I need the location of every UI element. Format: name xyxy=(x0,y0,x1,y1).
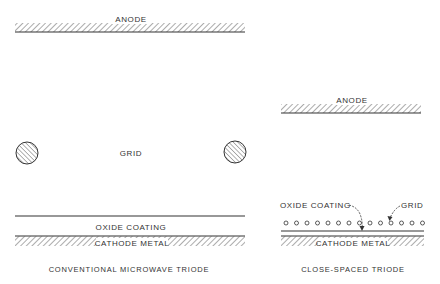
close-spaced-caption: CLOSE-SPACED TRIODE xyxy=(301,265,405,274)
conventional-cathode: CATHODE METAL xyxy=(15,236,245,248)
conventional-oxide-coating: OXIDE COATING xyxy=(15,216,245,232)
grid-leader-line xyxy=(390,206,400,218)
close-spaced-anode-label: ANODE xyxy=(336,96,367,105)
grid-wire-right xyxy=(224,141,246,163)
grid-leader-arrow xyxy=(388,216,393,221)
conventional-anode-label: ANODE xyxy=(115,15,146,24)
close-spaced-cathode: CATHODE METAL xyxy=(281,236,424,248)
conventional-grid-label: GRID xyxy=(120,149,142,158)
close-spaced-cathode-label: CATHODE METAL xyxy=(316,239,391,248)
oxide-leader-arrow xyxy=(360,226,365,231)
conventional-oxide-label: OXIDE COATING xyxy=(96,223,167,232)
oxide-leader-line xyxy=(349,205,362,229)
conventional-anode: ANODE xyxy=(15,14,245,32)
conventional-grid: GRID xyxy=(16,141,246,164)
close-spaced-anode: ANODE xyxy=(281,95,421,113)
close-spaced-triode: ANODE OXIDE COATING GRID xyxy=(280,95,425,274)
conventional-caption: CONVENTIONAL MICROWAVE TRIODE xyxy=(49,265,210,274)
close-spaced-labels: OXIDE COATING GRID xyxy=(280,201,423,231)
close-spaced-grid-wires xyxy=(284,221,425,225)
conventional-triode: ANODE GRID OXIDE COATING CATHODE METAL C… xyxy=(15,14,246,274)
grid-wire-left xyxy=(16,142,38,164)
close-spaced-oxide-label: OXIDE COATING xyxy=(280,201,351,210)
conventional-cathode-label: CATHODE METAL xyxy=(95,239,170,248)
triode-comparison-diagram: ANODE GRID OXIDE COATING CATHODE METAL C… xyxy=(0,0,440,284)
close-spaced-grid-label: GRID xyxy=(401,201,423,210)
